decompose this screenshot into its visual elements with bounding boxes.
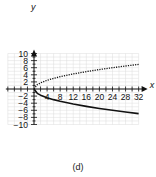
x-axis-label: x xyxy=(149,80,155,90)
x-tick-label: 12 xyxy=(69,92,79,102)
x-tick-label: 24 xyxy=(108,92,118,102)
x-tick-label: 28 xyxy=(121,92,131,102)
y-tick-label: 10 xyxy=(19,49,29,59)
y-axis-label: y xyxy=(30,2,36,12)
chart: xy48121620242832−10−8−6−4−2246810 xyxy=(0,0,156,177)
figure-caption: (d) xyxy=(0,162,156,172)
x-tick-label: 32 xyxy=(134,92,144,102)
y-axis-arrow-icon xyxy=(31,50,37,57)
y-tick-label: −2 xyxy=(18,91,28,101)
x-tick-label: 16 xyxy=(82,92,92,102)
x-tick-label: 20 xyxy=(95,92,105,102)
